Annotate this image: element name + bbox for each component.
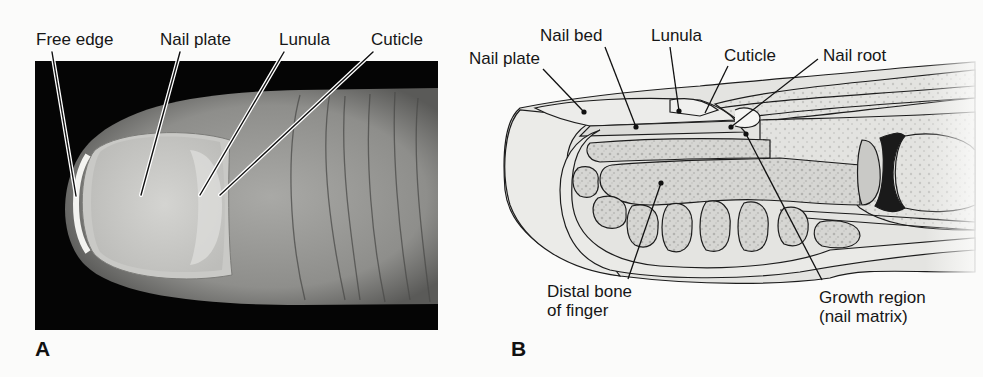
label-a-lunula: Lunula xyxy=(279,31,330,49)
label-b-cuticle: Cuticle xyxy=(724,47,776,65)
panel-b-illustration xyxy=(504,55,983,295)
label-b-growth-region-line2: (nail matrix) xyxy=(819,308,908,326)
label-a-free-edge: Free edge xyxy=(36,31,114,49)
label-a-nail-plate: Nail plate xyxy=(160,31,231,49)
panel-letter-b: B xyxy=(511,337,526,361)
panel-a-photo xyxy=(35,61,438,330)
label-a-cuticle: Cuticle xyxy=(371,31,423,49)
label-b-growth-region-line1: Growth region xyxy=(819,289,926,307)
label-b-nail-plate: Nail plate xyxy=(469,50,540,68)
panel-letter-a: A xyxy=(35,337,50,361)
label-b-distal-bone-line1: Distal bone xyxy=(547,283,632,301)
label-b-nail-bed: Nail bed xyxy=(540,27,602,45)
label-b-nail-root: Nail root xyxy=(823,47,886,65)
label-b-distal-bone-line2: of finger xyxy=(547,302,608,320)
label-b-lunula: Lunula xyxy=(651,27,702,45)
